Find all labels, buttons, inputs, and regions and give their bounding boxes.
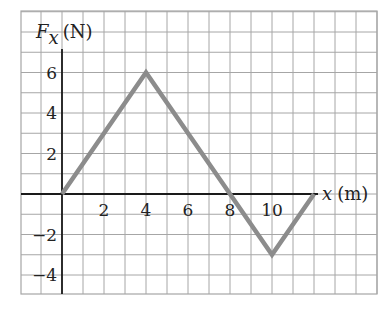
y-axis-subscript: x: [49, 27, 59, 48]
y-axis-unit: (N): [63, 21, 93, 42]
force-position-chart: 246810 642−2−4 Fx(N) x(m): [0, 0, 388, 309]
y-tick-label: 6: [46, 63, 57, 83]
y-axis-label: Fx(N): [35, 21, 92, 48]
y-tick-label: 2: [46, 144, 57, 164]
x-axis-unit: (m): [337, 183, 368, 204]
y-tick-label: 4: [46, 103, 57, 123]
x-axis-label: x(m): [322, 183, 368, 204]
x-tick-label: 6: [183, 200, 194, 220]
x-tick-label: 2: [99, 200, 110, 220]
x-tick-label: 10: [261, 200, 283, 220]
y-tick-label: −4: [32, 265, 57, 285]
x-axis-symbol: x: [322, 183, 332, 204]
y-tick-label: −2: [32, 225, 57, 245]
x-tick-label: 4: [141, 200, 152, 220]
x-tick-labels: 246810: [99, 200, 283, 220]
